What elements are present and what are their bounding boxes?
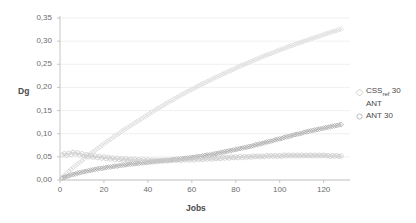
blank-marker-icon <box>355 100 364 109</box>
diamond-marker-icon <box>355 88 364 97</box>
circle-marker-icon <box>355 112 364 121</box>
y-tick-label: 0,00 <box>24 175 52 184</box>
x-axis-title: Jobs <box>186 203 206 213</box>
series-ant-30 <box>60 150 343 163</box>
x-tick-label: 120 <box>312 185 336 194</box>
legend-label-ant-30: ANT 30 <box>366 110 393 122</box>
y-tick-label: 0,05 <box>24 152 52 161</box>
legend-label-ant: ANT <box>366 98 382 110</box>
legend-item-ant[interactable]: ANT <box>355 98 401 110</box>
y-tick-label: 0,20 <box>24 82 52 91</box>
x-tick-label: 100 <box>268 185 292 194</box>
y-tick-label: 0,10 <box>24 129 52 138</box>
y-tick-label: 0,30 <box>24 36 52 45</box>
x-tick-label: 80 <box>224 185 248 194</box>
chart-legend: CSSref 30 ANT ANT 30 <box>355 86 401 122</box>
x-tick-label: 60 <box>180 185 204 194</box>
legend-item-css-ref-30[interactable]: CSSref 30 <box>355 86 401 98</box>
series-ant <box>60 122 344 180</box>
legend-item-ant-30[interactable]: ANT 30 <box>355 110 401 122</box>
x-tick-label: 20 <box>92 185 116 194</box>
chart-container: Dg Jobs 0,000,050,100,150,200,250,300,35… <box>0 0 416 223</box>
y-tick-label: 0,15 <box>24 106 52 115</box>
y-tick-label: 0,25 <box>24 59 52 68</box>
y-tick-label: 0,35 <box>24 13 52 22</box>
x-tick-label: 0 <box>48 185 72 194</box>
x-tick-label: 40 <box>136 185 160 194</box>
